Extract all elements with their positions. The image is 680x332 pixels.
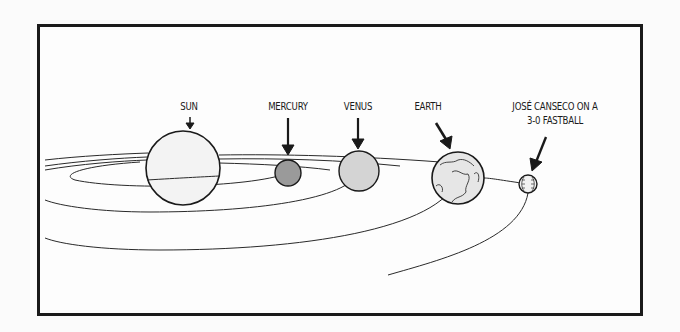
- earth-orbit: [45, 178, 458, 250]
- canseco-label-line1: JOSÉ CANSECO ON A: [497, 100, 614, 113]
- canseco-label-line2: 3-0 FASTBALL: [504, 114, 605, 127]
- venus-icon: [339, 151, 379, 191]
- sun-arrow-icon: [186, 117, 194, 129]
- earth-icon: [432, 152, 484, 204]
- mercury-arrow-icon: [282, 118, 294, 155]
- sun-icon: [146, 131, 220, 205]
- earth-label: EARTH: [409, 100, 448, 113]
- mercury-icon: [275, 160, 301, 186]
- solar-system-drawing: [0, 0, 680, 332]
- baseball-icon: [519, 175, 537, 193]
- baseball-arrow-icon: [530, 137, 546, 171]
- sun-label: SUN: [173, 100, 204, 113]
- mercury-label: MERCURY: [261, 100, 316, 113]
- baseball-orbit: [388, 193, 528, 275]
- earth-arrow-icon: [436, 123, 452, 149]
- venus-arrow-icon: [352, 118, 364, 149]
- venus-label: VENUS: [339, 100, 378, 113]
